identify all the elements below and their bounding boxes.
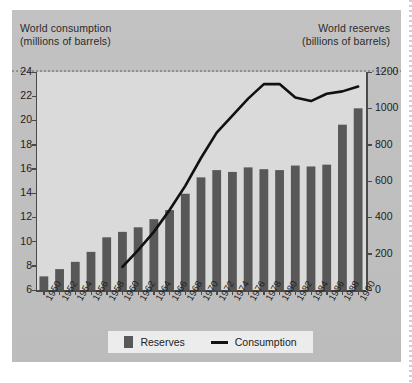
left-tick-22 (32, 96, 37, 97)
right-tick-800 (367, 144, 372, 145)
left-tick-label-8: 8 (6, 259, 32, 271)
left-tick-label-10: 10 (6, 235, 32, 247)
left-tick-label-20: 20 (6, 113, 32, 125)
bar-1976 (244, 167, 253, 290)
legend-label-consumption: Consumption (235, 336, 297, 348)
right-tick-label-200: 200 (375, 247, 393, 259)
left-tick-label-22: 22 (6, 89, 32, 101)
left-tick-16 (32, 168, 37, 169)
right-tick-1200 (367, 72, 372, 73)
bar-1978 (259, 169, 268, 290)
bar-1986 (322, 165, 331, 290)
right-tick-1000 (367, 108, 372, 109)
bar-1970 (197, 177, 206, 290)
figure-caption (14, 374, 398, 383)
consumption-line-icon (211, 341, 228, 344)
right-tick-200 (367, 253, 372, 254)
legend-label-reserves: Reserves (140, 336, 184, 348)
left-tick-label-12: 12 (6, 210, 32, 222)
left-axis-title-line2: (millions of barrels) (20, 35, 111, 48)
bar-1982 (291, 166, 300, 290)
chart-canvas (36, 72, 366, 290)
left-tick-label-14: 14 (6, 186, 32, 198)
left-tick-label-6: 6 (6, 283, 32, 295)
left-tick-14 (32, 193, 37, 194)
chart-legend: Reserves Consumption (108, 331, 313, 353)
left-tick-6 (32, 290, 37, 291)
bar-1966 (165, 210, 174, 290)
bar-1980 (275, 170, 284, 290)
left-tick-10 (32, 241, 37, 242)
left-tick-12 (32, 217, 37, 218)
right-tick-600 (367, 181, 372, 182)
left-tick-label-24: 24 (6, 65, 32, 77)
left-tick-label-16: 16 (6, 162, 32, 174)
right-axis-title-line1: World reserves (302, 22, 390, 35)
left-axis-title: World consumption (millions of barrels) (20, 22, 111, 47)
right-tick-400 (367, 217, 372, 218)
left-tick-20 (32, 120, 37, 121)
right-tick-label-600: 600 (375, 174, 393, 186)
bar-1990 (354, 108, 363, 290)
left-tick-18 (32, 144, 37, 145)
left-tick-8 (32, 265, 37, 266)
right-axis-title-line2: (billions of barrels) (302, 35, 390, 48)
bar-1972 (212, 170, 221, 290)
right-tick-label-800: 800 (375, 138, 393, 150)
legend-item-reserves: Reserves (124, 336, 184, 348)
right-tick-label-400: 400 (375, 210, 393, 222)
legend-item-consumption: Consumption (211, 336, 297, 348)
plot-area (36, 72, 366, 290)
bar-1974 (228, 172, 237, 290)
left-axis-line (36, 72, 38, 290)
bar-1988 (338, 125, 347, 290)
reserves-swatch-icon (124, 336, 133, 348)
right-tick-label-1000: 1000 (375, 101, 398, 113)
right-tick-label-1200: 1200 (375, 65, 398, 77)
bar-1984 (307, 166, 316, 290)
chart-figure: World consumption (millions of barrels) … (0, 0, 412, 383)
left-axis-title-line1: World consumption (20, 22, 111, 35)
right-axis-title: World reserves (billions of barrels) (302, 22, 390, 47)
bar-1968 (181, 194, 190, 290)
left-tick-24 (32, 72, 37, 73)
left-tick-label-18: 18 (6, 138, 32, 150)
